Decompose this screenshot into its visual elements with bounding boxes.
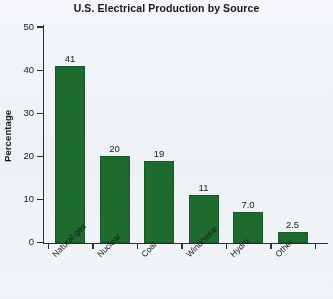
- y-tick-label: 10: [16, 193, 34, 204]
- bar-value-label: 41: [50, 53, 90, 64]
- y-tick-mark: [37, 199, 43, 200]
- y-tick-label: 50: [16, 21, 34, 32]
- y-tick-mark: [37, 26, 43, 27]
- y-axis-label: Percentage: [2, 101, 16, 171]
- bar-chart: U.S. Electrical Production by Source Per…: [0, 0, 333, 299]
- x-tick-mark: [181, 243, 182, 249]
- y-tick-label: 0: [16, 236, 34, 247]
- bar: [55, 66, 85, 243]
- bar-value-label: 2.5: [273, 219, 313, 230]
- y-tick-label: 40: [16, 64, 34, 75]
- y-tick-mark: [37, 156, 43, 157]
- x-category-label: Hydro: [228, 236, 251, 259]
- bar-value-label: 19: [139, 148, 179, 159]
- y-tick-mark: [37, 113, 43, 114]
- bar: [100, 156, 130, 242]
- y-tick-mark: [37, 242, 43, 243]
- x-tick-mark: [315, 243, 316, 249]
- bar: [144, 161, 174, 243]
- x-tick-mark: [92, 243, 93, 249]
- x-tick-mark: [226, 243, 227, 249]
- x-tick-mark: [137, 243, 138, 249]
- y-axis-line: [43, 25, 44, 244]
- bar-value-label: 7.0: [228, 199, 268, 210]
- x-tick-mark: [48, 243, 49, 249]
- bar-value-label: 11: [184, 182, 224, 193]
- y-tick-mark: [37, 70, 43, 71]
- x-tick-mark: [270, 243, 271, 249]
- y-tick-label: 20: [16, 150, 34, 161]
- bar-value-label: 20: [95, 143, 135, 154]
- x-category-label: Other: [273, 237, 295, 259]
- chart-title: U.S. Electrical Production by Source: [0, 2, 333, 14]
- y-tick-label: 30: [16, 107, 34, 118]
- bar: [233, 212, 263, 242]
